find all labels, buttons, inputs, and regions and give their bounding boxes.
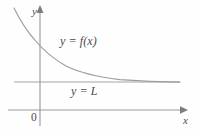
y-axis-label: y	[32, 6, 37, 17]
origin-label: 0	[31, 112, 37, 124]
figure-canvas	[0, 0, 197, 135]
function-label: y = f(x)	[60, 35, 97, 47]
limit-label: y = L	[71, 85, 98, 97]
y-axis-arrow-icon	[37, 5, 44, 13]
limit-asymptote-figure: y x 0 y = f(x) y = L	[0, 0, 197, 135]
x-axis-label: x	[183, 115, 188, 126]
x-axis-arrow-icon	[180, 106, 188, 113]
function-curve	[14, 8, 180, 82]
